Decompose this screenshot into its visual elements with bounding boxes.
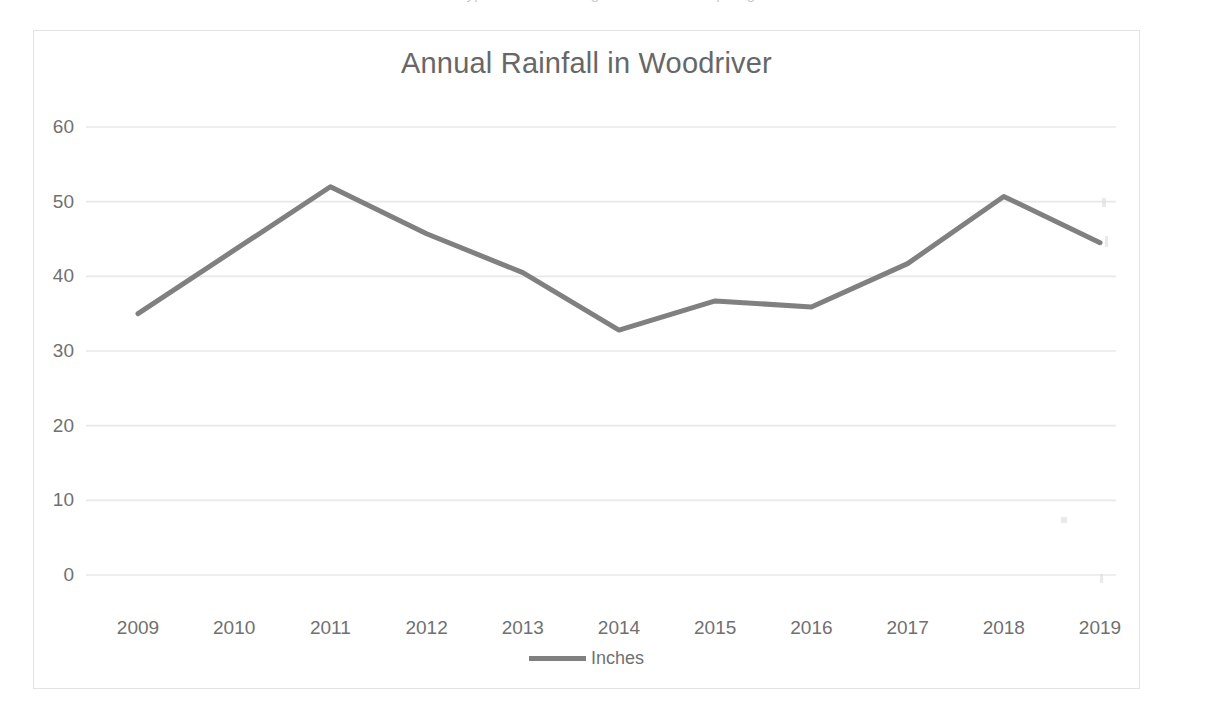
x-tick-label-2009: 2009 bbox=[117, 617, 159, 639]
scan-speck-2 bbox=[1105, 236, 1108, 247]
legend-label-inches: Inches bbox=[591, 648, 644, 669]
gridlines bbox=[86, 127, 1116, 575]
legend-swatch-inches bbox=[529, 656, 586, 661]
x-tick-label-2015: 2015 bbox=[694, 617, 736, 639]
x-tick-label-2011: 2011 bbox=[310, 617, 351, 639]
cropped-sentence-fragment: typed sentence fragment cut off at top e… bbox=[0, 0, 1226, 2]
chart-container: Annual Rainfall in Woodriver 01020304050… bbox=[33, 30, 1140, 689]
data-series-group bbox=[138, 187, 1100, 330]
x-tick-label-2014: 2014 bbox=[598, 617, 640, 639]
series-line-inches bbox=[138, 187, 1100, 330]
y-tick-label-40: 40 bbox=[14, 265, 74, 287]
x-tick-label-2018: 2018 bbox=[983, 617, 1025, 639]
x-tick-label-2010: 2010 bbox=[213, 617, 255, 639]
x-tick-label-2019: 2019 bbox=[1079, 617, 1121, 639]
scan-speck-4 bbox=[1100, 574, 1103, 583]
x-tick-label-2013: 2013 bbox=[502, 617, 544, 639]
y-tick-label-0: 0 bbox=[14, 564, 74, 586]
y-tick-label-50: 50 bbox=[14, 191, 74, 213]
x-tick-label-2017: 2017 bbox=[886, 617, 928, 639]
y-tick-label-60: 60 bbox=[14, 116, 74, 138]
line-chart-plot bbox=[34, 31, 1141, 690]
y-tick-label-30: 30 bbox=[14, 340, 74, 362]
x-tick-label-2012: 2012 bbox=[405, 617, 447, 639]
top-cropped-text-artifact: typed sentence fragment cut off at top e… bbox=[0, 0, 1226, 16]
scan-speck-3 bbox=[1061, 517, 1067, 523]
y-tick-label-20: 20 bbox=[14, 415, 74, 437]
scan-speck-1 bbox=[1102, 198, 1106, 207]
x-tick-label-2016: 2016 bbox=[790, 617, 832, 639]
chart-legend: Inches bbox=[34, 648, 1139, 669]
y-tick-label-10: 10 bbox=[14, 489, 74, 511]
